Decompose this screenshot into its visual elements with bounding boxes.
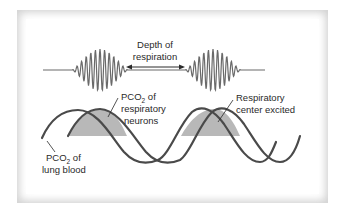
respiration-diagram: Depth of respiration PCO2 of respiratory… <box>0 0 340 214</box>
arrowhead-left-icon <box>126 65 132 70</box>
lung-leader-line <box>47 141 55 152</box>
neurons-label-line2: respiratory <box>121 103 166 114</box>
excited-label-line1: Respiratory <box>236 92 285 103</box>
lung-label-line1: PCO2 of <box>46 152 81 165</box>
depth-label-line2: respiration <box>133 51 177 62</box>
excited-label-line2: center excited <box>236 104 295 115</box>
neurons-label-line3: neurons <box>124 115 159 126</box>
neurons-label-line1: PCO2 of <box>121 91 156 104</box>
depth-label-line1: Depth of <box>137 39 173 50</box>
lung-label-line2: lung blood <box>42 164 86 175</box>
arrowhead-right-icon <box>179 65 185 70</box>
